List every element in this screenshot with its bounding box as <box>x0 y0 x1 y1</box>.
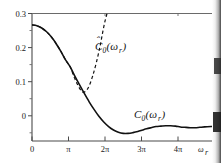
chart-plot: 0.3 0.2 0.1 0 0 π 2π 3π 4π ω r ˆ C 0 (ω … <box>0 0 221 163</box>
x-axis-name-subscript: r <box>205 148 209 157</box>
y-tick-label-0.2: 0.2 <box>15 43 26 53</box>
y-tick-label-0: 0 <box>22 111 26 121</box>
x-tick-label-0: 0 <box>30 144 34 154</box>
x-tick-label-pi: π <box>66 144 71 154</box>
x-axis-name: ω r <box>198 145 209 157</box>
y-tick-label-0.1: 0.1 <box>15 77 26 87</box>
x-tick-label-4pi: 4π <box>174 144 183 154</box>
curve-label-c0-hat: ˆ C 0 (ω r ) <box>95 34 127 55</box>
x-tick-label-3pi: 3π <box>137 144 146 154</box>
x-tick-label-2pi: 2π <box>101 144 110 154</box>
figure-container: 0.3 0.2 0.1 0 0 π 2π 3π 4π ω r ˆ C 0 (ω … <box>0 0 221 163</box>
curve-label-hat-open: (ω <box>107 40 119 53</box>
x-axis-name-omega: ω <box>198 145 204 154</box>
curve-label-plain-open: (ω <box>146 108 158 121</box>
curve-label-hat-close: ) <box>122 40 127 53</box>
y-tick-label-0.3: 0.3 <box>15 9 26 19</box>
curve-label-plain-close: ) <box>161 108 166 121</box>
curve-label-c0: C 0 (ω r ) <box>134 108 166 123</box>
